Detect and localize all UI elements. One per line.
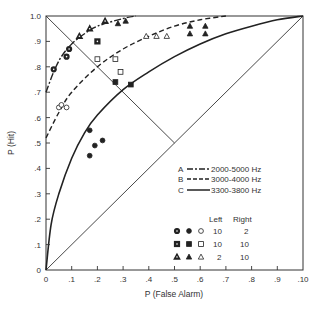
triangle-filled-marker	[187, 31, 192, 36]
legend-header-right: Right	[233, 215, 252, 224]
y-tick-label: .9	[34, 37, 41, 46]
circle-open-marker	[199, 229, 204, 234]
y-tick-label: .3	[34, 190, 41, 199]
y-axis-label: P (Hit)	[6, 131, 16, 155]
x-axis-label: P (False Alarm)	[145, 289, 204, 299]
legend-row-triangle-right: 10	[240, 253, 249, 262]
marker-center-dot	[176, 256, 178, 258]
triangle-open-marker	[164, 33, 169, 38]
square-open-marker	[199, 242, 204, 247]
square-open-marker	[118, 69, 123, 74]
x-tick-label: .9	[274, 275, 281, 284]
legend-row-square-left: 10	[213, 240, 222, 249]
marker-center-dot	[53, 69, 55, 71]
x-tick-label: .2	[94, 275, 101, 284]
legend-label-a: 2000-5000 Hz	[211, 165, 261, 174]
y-tick-label: .4	[34, 164, 41, 173]
x-tick-label: .7	[223, 275, 230, 284]
x-tick-label: .6	[197, 275, 204, 284]
legend-row-triangle-left: 2	[217, 253, 222, 262]
y-tick-label: .1	[34, 241, 41, 250]
circle-open-marker	[64, 105, 69, 110]
square-filled-marker	[187, 242, 192, 247]
triangle-filled-marker	[115, 21, 120, 26]
circle-filled-marker	[100, 138, 105, 143]
x-tick-label: .3	[120, 275, 127, 284]
legend-key-b: B	[178, 175, 183, 184]
x-tick-label: 0	[44, 275, 49, 284]
y-tick-label: 0	[37, 266, 42, 275]
roc-chart: 0.1.2.3.4.5.6.7.8.9.10 0.1.2.3.4.5.6.7.8…	[0, 0, 317, 309]
marker-center-dot	[176, 243, 178, 245]
legend-key-a: A	[178, 165, 184, 174]
circle-open-marker	[59, 103, 64, 108]
legend-label-b: 3000-4000 Hz	[211, 175, 261, 184]
legend-row-square-right: 10	[240, 240, 249, 249]
marker-center-dot	[66, 56, 68, 58]
triangle-filled-marker	[203, 23, 208, 28]
triangle-filled-marker	[186, 254, 191, 259]
square-open-marker	[95, 57, 100, 62]
triangle-open-marker	[198, 254, 203, 259]
y-tick-label: .5	[34, 139, 41, 148]
legend-row-circle-right: 2	[244, 227, 249, 236]
x-tick-label: .5	[171, 275, 178, 284]
y-tick-label: .6	[34, 114, 41, 123]
y-tick-label: .2	[34, 215, 41, 224]
circle-filled-marker	[187, 229, 192, 234]
legend-marker-table: Left Right 10 2 10 10 2 10	[174, 215, 252, 262]
marker-center-dot	[89, 28, 91, 30]
y-tick-label: 1.0	[30, 12, 42, 21]
y-tick-label: .8	[34, 63, 41, 72]
circle-filled-marker	[87, 153, 92, 158]
circle-filled-marker	[87, 128, 92, 133]
y-axis-ticks: 0.1.2.3.4.5.6.7.8.91.0	[30, 12, 50, 275]
square-filled-marker	[113, 80, 118, 85]
legend-marker-rows	[174, 229, 203, 260]
x-tick-label: .10	[297, 275, 309, 284]
legend-label-c: 3300-3800 Hz	[211, 186, 261, 195]
square-open-marker	[113, 57, 118, 62]
marker-center-dot	[68, 48, 70, 50]
square-filled-marker	[128, 82, 133, 87]
marker-center-dot	[79, 36, 81, 38]
x-tick-label: .1	[68, 275, 75, 284]
marker-center-dot	[104, 20, 106, 22]
curve-b	[46, 16, 226, 138]
triangle-filled-marker	[187, 23, 192, 28]
y-tick-label: .7	[34, 88, 41, 97]
x-tick-label: .4	[145, 275, 152, 284]
legend-key-c: C	[178, 186, 184, 195]
legend-row-circle-left: 10	[213, 227, 222, 236]
marker-center-dot	[176, 230, 178, 232]
circle-filled-marker	[92, 143, 97, 148]
marker-center-dot	[97, 41, 99, 43]
x-axis-ticks: 0.1.2.3.4.5.6.7.8.9.10	[44, 266, 309, 284]
legend-lines: A 2000-5000 Hz B 3000-4000 Hz C 3300-380…	[178, 165, 261, 195]
x-tick-label: .8	[248, 275, 255, 284]
legend-header-left: Left	[209, 215, 223, 224]
triangle-filled-marker	[203, 31, 208, 36]
